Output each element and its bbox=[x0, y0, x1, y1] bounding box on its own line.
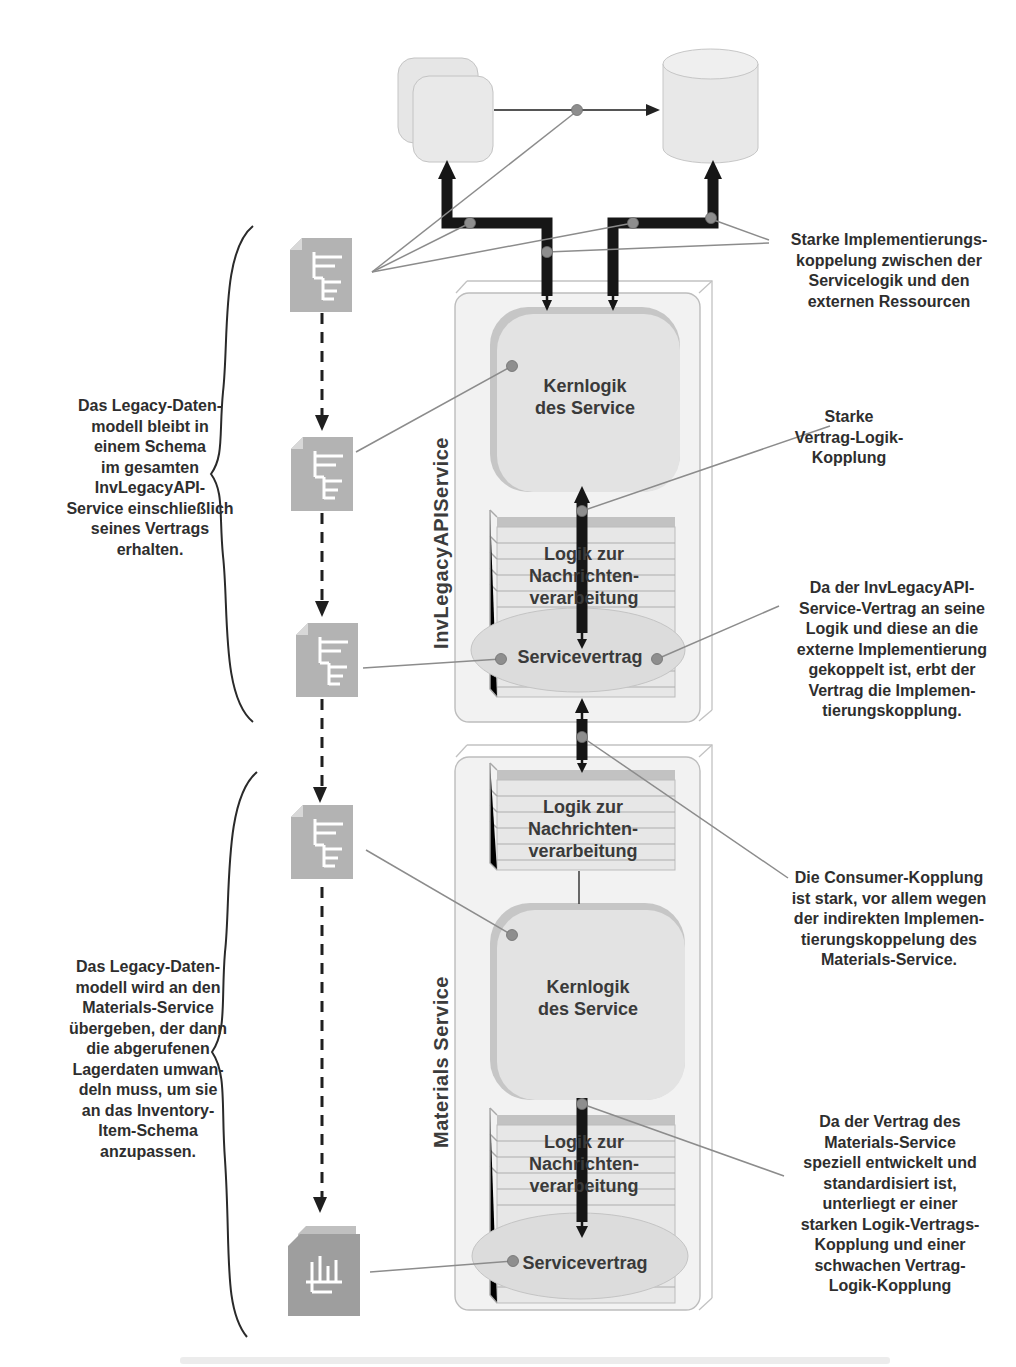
schema-document-icon bbox=[290, 238, 352, 312]
invlegacy-service-label: InvLegacyAPIService bbox=[430, 437, 453, 649]
invlegacy-contract-label: Servicevertrag bbox=[517, 646, 642, 668]
converted-schema-document-icon bbox=[288, 1226, 360, 1316]
schema-document-icon bbox=[296, 623, 358, 697]
materials-messaging-top-label: Logik zur Nachrichten- verarbeitung bbox=[528, 796, 638, 862]
diagram-canvas: Das Legacy-Daten- modell bleibt in einem… bbox=[0, 0, 1016, 1367]
materials-contract-label: Servicevertrag bbox=[522, 1252, 647, 1274]
materials-service-label: Materials Service bbox=[430, 976, 453, 1148]
note-legacy-schema-converted: Das Legacy-Daten- modell wird an den Mat… bbox=[69, 957, 227, 1162]
note-legacy-schema-preserved: Das Legacy-Daten- modell bleibt in einem… bbox=[66, 396, 233, 560]
invlegacy-core-logic-label: Kernlogik des Service bbox=[535, 375, 635, 419]
left-implementation-coupling-connector bbox=[438, 160, 552, 311]
note-materials-contract-coupling: Da der Vertrag des Materials-Service spe… bbox=[801, 1112, 980, 1297]
invlegacy-messaging-label: Logik zur Nachrichten- verarbeitung bbox=[529, 543, 639, 609]
note-strong-contract-logic-coupling: Starke Vertrag-Logik- Kopplung bbox=[795, 407, 903, 469]
components-icon bbox=[398, 58, 493, 162]
materials-messaging-bottom-label: Logik zur Nachrichten- verarbeitung bbox=[529, 1131, 639, 1197]
cropped-caption-fragment bbox=[180, 1357, 890, 1364]
schema-document-icon bbox=[291, 805, 353, 879]
note-contract-inherits-coupling: Da der InvLegacyAPI- Service-Vertrag an … bbox=[797, 578, 987, 722]
schema-document-icon bbox=[291, 437, 353, 511]
note-strong-implementation-coupling: Starke Implementierungs- koppelung zwisc… bbox=[791, 230, 988, 312]
database-icon bbox=[663, 49, 758, 163]
note-consumer-coupling: Die Consumer-Kopplung ist stark, vor all… bbox=[792, 868, 987, 971]
materials-core-logic-label: Kernlogik des Service bbox=[538, 976, 638, 1020]
